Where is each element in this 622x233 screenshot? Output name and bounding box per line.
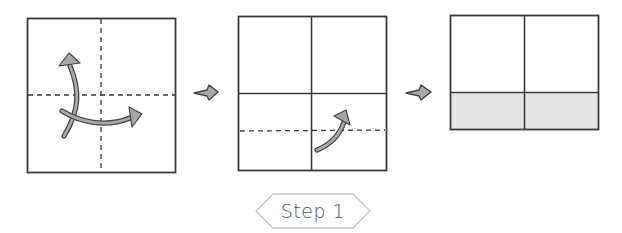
next-step-arrow-icon	[194, 85, 218, 100]
frame-2	[239, 17, 387, 171]
frame-3	[451, 16, 599, 130]
next-step-arrow-icon	[406, 85, 431, 100]
frame-1	[28, 19, 176, 173]
step-label: Step 1	[255, 193, 371, 229]
